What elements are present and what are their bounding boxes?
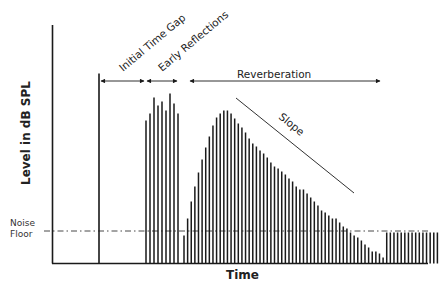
impulse-bar xyxy=(400,233,402,264)
impulse-bar xyxy=(281,172,283,264)
impulse-bar xyxy=(415,233,417,264)
impulse-bar xyxy=(201,160,203,264)
impulse-bar xyxy=(393,233,395,264)
impulse-bar xyxy=(248,139,250,264)
impulse-bar xyxy=(285,175,287,264)
impulse-bar xyxy=(295,187,297,264)
impulse-bar xyxy=(238,124,240,264)
impulse-bar xyxy=(310,198,312,264)
impulse-bar xyxy=(339,223,341,264)
noise-floor-label-line2: Floor xyxy=(10,229,33,239)
impulse-bar xyxy=(314,202,316,264)
impulse-bar xyxy=(270,163,272,264)
impulse-bar xyxy=(404,233,406,264)
impulse-bar xyxy=(397,233,399,264)
impulse-bar xyxy=(343,227,345,264)
impulse-bar xyxy=(328,216,330,264)
impulse-bar xyxy=(157,106,159,264)
impulse-bar xyxy=(252,144,254,264)
impulse-bar xyxy=(212,126,214,264)
impulse-bar xyxy=(437,233,439,264)
impulse-bar xyxy=(153,98,155,264)
impulse-bar xyxy=(149,114,151,264)
impulse-bar xyxy=(161,102,163,264)
impulse-bar xyxy=(332,219,334,264)
impulse-bar xyxy=(259,151,261,264)
impulse-bar xyxy=(353,236,355,264)
impulse-bar xyxy=(324,213,326,264)
impulse-bar xyxy=(411,233,413,264)
impulse-bar xyxy=(346,229,348,264)
impulse-bar xyxy=(183,236,185,264)
impulse-bar xyxy=(357,238,359,264)
impulse-bar xyxy=(187,219,189,264)
impulse-bar xyxy=(433,233,435,264)
impulse-bar xyxy=(216,118,218,264)
impulse-bar xyxy=(382,258,384,264)
impulse-bar xyxy=(429,233,431,264)
reverberation-diagram: Noise Floor Level in dB SPL Time Initial… xyxy=(0,0,439,292)
impulse-bar xyxy=(288,179,290,264)
impulse-bar xyxy=(277,169,279,264)
impulse-bar xyxy=(267,158,269,264)
impulse-bar xyxy=(98,74,100,264)
impulse-bar xyxy=(390,233,392,264)
impulse-bar xyxy=(379,254,381,264)
impulse-bar xyxy=(306,194,308,264)
x-axis-title: Time xyxy=(226,268,259,282)
early-reflections-label: Early Reflections xyxy=(156,8,231,73)
impulse-bar xyxy=(198,173,200,264)
impulse-bar xyxy=(230,114,232,264)
impulse-bar xyxy=(209,137,211,264)
reverberation-label: Reverberation xyxy=(237,68,311,80)
noise-floor-label-line1: Noise xyxy=(10,218,35,228)
impulse-bar xyxy=(299,190,301,264)
slope-label: Slope xyxy=(277,110,307,138)
impulse-bar xyxy=(422,233,424,264)
impulse-bar xyxy=(205,148,207,264)
impulse-bar xyxy=(219,114,221,264)
early-reflections-bars xyxy=(145,94,179,264)
impulse-bar xyxy=(227,111,229,264)
impulse-bar xyxy=(335,219,337,264)
impulse-bar xyxy=(263,154,265,264)
impulse-bar xyxy=(371,252,373,264)
impulse-bar xyxy=(386,233,388,264)
impulse-bar xyxy=(245,133,247,264)
impulse-bar xyxy=(350,233,352,264)
impulse-bar xyxy=(375,252,377,264)
impulse-bar xyxy=(165,111,167,264)
impulse-bar xyxy=(194,187,196,264)
impulse-bar xyxy=(426,233,428,264)
impulse-bar xyxy=(408,233,410,264)
impulse-bar xyxy=(241,128,243,264)
impulse-bar xyxy=(169,94,171,264)
impulse-bar xyxy=(321,211,323,264)
impulse-bar xyxy=(190,202,192,264)
impulse-bar xyxy=(145,121,147,264)
impulse-bar xyxy=(303,190,305,264)
annotation-arrows xyxy=(101,81,380,193)
direct-sound-impulse xyxy=(98,74,100,264)
impulse-bar xyxy=(177,114,179,264)
impulse-bar xyxy=(256,147,258,264)
axes xyxy=(52,25,428,264)
impulse-bar xyxy=(234,119,236,264)
impulse-bar xyxy=(361,241,363,264)
impulse-bar xyxy=(274,167,276,264)
impulse-bar xyxy=(223,111,225,264)
y-axis-title: Level in dB SPL xyxy=(19,81,33,185)
impulse-bar xyxy=(317,206,319,264)
initial-time-gap-label: Initial Time Gap xyxy=(117,11,188,74)
impulse-bar xyxy=(368,248,370,264)
impulse-bar xyxy=(364,245,366,264)
slope-line xyxy=(236,98,354,193)
impulse-bar xyxy=(292,182,294,264)
impulse-bar xyxy=(173,104,175,264)
impulse-bar xyxy=(419,233,421,264)
reverberation-bars xyxy=(183,111,438,264)
